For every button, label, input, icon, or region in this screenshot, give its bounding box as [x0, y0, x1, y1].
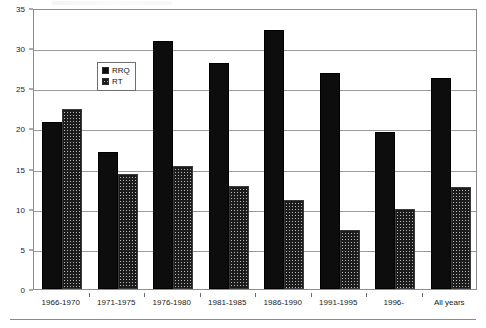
- bar-rt: [229, 186, 249, 289]
- bar-rt: [395, 209, 415, 289]
- bar-rrq: [209, 63, 229, 289]
- x-axis: 1966-19701971-19751976-19801981-19851986…: [33, 293, 477, 313]
- bar-group: [201, 10, 257, 289]
- x-tick-label: 1991-1995: [319, 298, 357, 307]
- x-tick-mark: [89, 293, 90, 297]
- x-tick-mark: [200, 293, 201, 297]
- x-tick-mark: [144, 293, 145, 297]
- plot-area: RRQ RT: [33, 9, 477, 290]
- x-tick-mark: [422, 293, 423, 297]
- bar-rt: [284, 200, 304, 289]
- x-tick-label: All years: [434, 298, 465, 307]
- x-tick-label: 1971-1975: [97, 298, 135, 307]
- bar-group: [90, 10, 146, 289]
- legend-label-rrq: RRQ: [112, 65, 130, 76]
- legend-item-rrq: RRQ: [102, 65, 130, 76]
- y-tick-label-30: 30: [16, 45, 25, 54]
- legend-item-rt: RT: [102, 76, 130, 87]
- bar-rrq: [153, 41, 173, 289]
- bar-group: [423, 10, 479, 289]
- x-tick-label: 1981-1985: [208, 298, 246, 307]
- x-tick-mark: [366, 293, 367, 297]
- bar-rt: [451, 187, 471, 289]
- legend-swatch-rrq: [102, 67, 109, 74]
- scan-artifact: [52, 1, 172, 5]
- bar-rt: [118, 174, 138, 289]
- legend-label-rt: RT: [112, 76, 123, 87]
- bar-group: [34, 10, 90, 289]
- x-tick-label: 1966-1970: [42, 298, 80, 307]
- footer-rule: [10, 319, 476, 320]
- x-tick-mark: [311, 293, 312, 297]
- bar-rrq: [375, 132, 395, 289]
- x-tick-label: 1996-: [384, 298, 404, 307]
- bar-rt: [62, 109, 82, 289]
- y-tick-label-5: 5: [21, 245, 25, 254]
- legend-swatch-rt: [102, 78, 109, 85]
- x-tick-mark: [255, 293, 256, 297]
- bars-layer: [34, 10, 476, 289]
- chart-legend: RRQ RT: [97, 62, 136, 91]
- y-axis: 05101520253035: [0, 0, 33, 328]
- bar-group: [256, 10, 312, 289]
- bar-group: [312, 10, 368, 289]
- y-tick-label-15: 15: [16, 165, 25, 174]
- bar-rrq: [431, 78, 451, 289]
- bar-group: [145, 10, 201, 289]
- bar-rt: [340, 230, 360, 289]
- y-tick-label-25: 25: [16, 85, 25, 94]
- bar-group: [367, 10, 423, 289]
- bar-rt: [173, 166, 193, 289]
- y-tick-label-35: 35: [16, 5, 25, 14]
- bar-chart-figure: 05101520253035 RRQ RT 1966-19701971-1975…: [0, 0, 486, 328]
- bar-rrq: [98, 152, 118, 289]
- bar-rrq: [42, 122, 62, 289]
- y-tick-label-10: 10: [16, 205, 25, 214]
- y-tick-label-0: 0: [21, 286, 25, 295]
- bar-rrq: [320, 73, 340, 289]
- y-tick-label-20: 20: [16, 125, 25, 134]
- x-tick-label: 1986-1990: [264, 298, 302, 307]
- x-tick-label: 1976-1980: [153, 298, 191, 307]
- bar-rrq: [264, 30, 284, 289]
